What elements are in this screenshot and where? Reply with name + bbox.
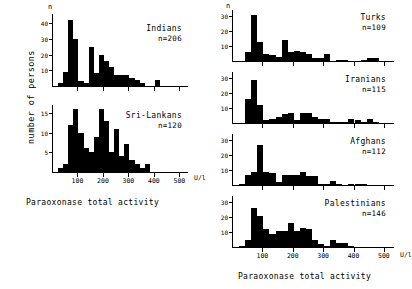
x-unit-right: U/l: [400, 251, 412, 259]
y-tick-afghans: [229, 155, 233, 156]
x-tick-turks: [293, 62, 294, 66]
y-tick-palestinians: [229, 217, 233, 218]
x-tick-label: 500: [378, 253, 390, 260]
panel-caption-indians: Indians n=206: [146, 24, 182, 44]
x-tick-afghans: [323, 186, 324, 190]
n-symbol-indians: n: [48, 3, 52, 11]
panel-caption-palestinians: Palestinians n=146: [325, 199, 386, 219]
x-tick-palestinians: [262, 248, 263, 252]
panel-iranians: 102030 Iranians n=115: [232, 72, 394, 124]
x-tick-indians: [128, 87, 129, 91]
y-tick-iranians: [229, 93, 233, 94]
x-unit-left: U/l: [194, 174, 206, 182]
y-tick-afghans: [229, 170, 233, 171]
y-tick-label-turks: 10: [221, 44, 228, 50]
x-tick-turks: [323, 62, 324, 66]
y-tick-label-palestinians: 10: [221, 230, 228, 236]
x-tick-label: 200: [97, 178, 109, 185]
histogram-bar: [336, 184, 342, 186]
y-tick-turks: [229, 16, 233, 17]
x-tick-indians: [103, 87, 104, 91]
population-count-afghans: n=112: [350, 147, 386, 157]
y-tick-label-afghans: 10: [221, 168, 228, 174]
x-tick-sri-lankans: [77, 173, 78, 177]
y-tick-indians: [49, 39, 53, 40]
panel-sri-lankans: 100200300400500 51015 Sri-Lankans n=120 …: [52, 105, 188, 173]
x-axis-caption-left: Paraoxonase total activity: [26, 198, 159, 207]
x-tick-label: 300: [317, 253, 329, 260]
population-name-afghans: Afghans: [350, 137, 386, 147]
histogram-bar: [342, 60, 348, 62]
histogram-bar: [324, 54, 330, 62]
x-axis-sri-lankans: [52, 172, 188, 173]
y-tick-indians: [49, 23, 53, 24]
x-axis-palestinians: [232, 247, 394, 248]
x-axis-turks: [232, 61, 394, 62]
population-count-turks: n=109: [360, 23, 386, 33]
x-tick-turks: [262, 62, 263, 66]
population-count-indians: n=206: [146, 34, 182, 44]
x-tick-label: 100: [72, 178, 84, 185]
panel-caption-iranians: Iranians n=115: [345, 75, 386, 95]
y-tick-label-afghans: 30: [221, 138, 228, 144]
x-tick-iranians: [354, 124, 355, 128]
histogram-bar: [73, 39, 78, 86]
panel-turks: 102030 Turks n=109: [232, 10, 394, 62]
population-name-turks: Turks: [360, 13, 386, 23]
left-column: number of persons n 10203040 Indians n=2…: [0, 0, 206, 289]
x-tick-sri-lankans: [154, 173, 155, 177]
x-tick-label: 300: [123, 178, 135, 185]
y-axis-label: number of persons: [26, 22, 36, 172]
panel-afghans: 102030 Afghans n=112: [232, 134, 394, 186]
y-tick-label-iranians: 30: [221, 76, 228, 82]
y-tick-label-indians: 10: [41, 68, 48, 74]
x-tick-turks: [354, 62, 355, 66]
population-count-sri-lankans: n=120: [126, 121, 182, 131]
y-tick-label-sri-lankans: 15: [41, 110, 48, 116]
x-tick-palestinians: [354, 248, 355, 252]
y-tick-label-indians: 30: [41, 37, 48, 43]
y-tick-label-turks: 30: [221, 14, 228, 20]
y-tick-afghans: [229, 140, 233, 141]
population-name-indians: Indians: [146, 24, 182, 34]
population-name-iranians: Iranians: [345, 75, 386, 85]
x-tick-afghans: [293, 186, 294, 190]
y-tick-sri-lankans: [49, 152, 53, 153]
x-tick-palestinians: [323, 248, 324, 252]
x-axis-iranians: [232, 123, 394, 124]
y-tick-label-turks: 20: [221, 29, 228, 35]
x-tick-palestinians: [293, 248, 294, 252]
x-tick-label: 200: [287, 253, 299, 260]
x-tick-indians: [77, 87, 78, 91]
y-tick-indians: [49, 70, 53, 71]
x-tick-afghans: [384, 186, 385, 190]
panel-caption-afghans: Afghans n=112: [350, 137, 386, 157]
histogram-bar: [145, 164, 150, 172]
population-name-sri-lankans: Sri-Lankans: [126, 111, 182, 121]
x-tick-iranians: [262, 124, 263, 128]
y-tick-label-indians: 20: [41, 52, 48, 58]
x-tick-indians: [179, 87, 180, 91]
x-tick-palestinians: [384, 248, 385, 252]
histogram-bar: [140, 83, 145, 86]
x-tick-label: 500: [173, 178, 185, 185]
x-tick-afghans: [354, 186, 355, 190]
y-tick-label-palestinians: 20: [221, 215, 228, 221]
x-tick-label: 100: [257, 253, 269, 260]
histogram-bar: [373, 122, 379, 124]
x-axis-afghans: [232, 185, 394, 186]
x-tick-label: 400: [348, 253, 360, 260]
panel-indians: 10203040 Indians n=206: [52, 14, 188, 87]
x-axis-indians: [52, 86, 188, 87]
y-tick-palestinians: [229, 232, 233, 233]
panel-caption-sri-lankans: Sri-Lankans n=120: [126, 111, 182, 131]
x-tick-label: 400: [148, 178, 160, 185]
x-tick-iranians: [384, 124, 385, 128]
x-tick-iranians: [323, 124, 324, 128]
histogram-bar: [348, 246, 354, 248]
y-tick-palestinians: [229, 202, 233, 203]
panel-caption-turks: Turks n=109: [360, 13, 386, 33]
y-tick-iranians: [229, 108, 233, 109]
panel-palestinians: 100200300400500 102030 Palestinians n=14…: [232, 196, 394, 248]
